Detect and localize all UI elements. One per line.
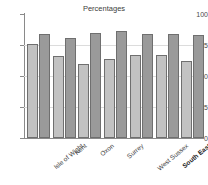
bar xyxy=(181,61,192,138)
bar-group xyxy=(104,14,127,138)
bar xyxy=(39,34,50,138)
bar-group xyxy=(130,14,153,138)
chart-container: Percentages 0255075100 Isle of WightKent… xyxy=(0,0,208,185)
bar xyxy=(116,31,127,138)
bar xyxy=(130,55,141,138)
bar-group xyxy=(78,14,101,138)
bar-group xyxy=(156,14,179,138)
bar xyxy=(142,34,153,138)
bar-group xyxy=(53,14,76,138)
bar-group xyxy=(27,14,50,138)
bar xyxy=(156,55,167,138)
plot-area xyxy=(24,14,204,138)
x-tick-label: Kent xyxy=(73,142,88,156)
bar xyxy=(65,38,76,138)
bar xyxy=(27,44,38,138)
bar xyxy=(193,35,204,138)
x-axis-line xyxy=(24,138,204,139)
bar xyxy=(90,33,101,138)
chart-title: Percentages xyxy=(0,4,208,13)
bar xyxy=(104,59,115,138)
bar xyxy=(78,64,89,138)
bar xyxy=(53,56,64,138)
x-tick-label: Surrey xyxy=(126,142,145,160)
bar-group xyxy=(181,14,204,138)
bar xyxy=(168,34,179,138)
x-tick-label: Oxon xyxy=(99,142,115,157)
